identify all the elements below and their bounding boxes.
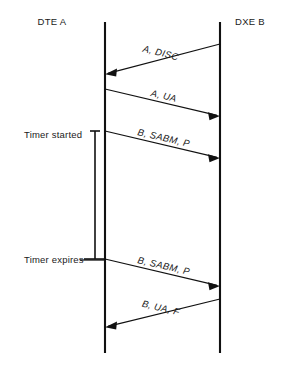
annotation-timer-started-label: Timer started [24, 129, 82, 140]
lifeline-header-dte-a: DTE A [38, 16, 67, 27]
message-b-sabm-p-first-arrowhead [208, 154, 220, 162]
message-a-disc-arrowhead [105, 69, 117, 77]
message-b-ua-f-arrowhead [105, 322, 117, 330]
message-b-ua-f-label: B, UA, F [141, 298, 182, 318]
message-b-sabm-p-second-arrowhead [208, 282, 220, 290]
lifeline-group-dxe-b: DXE B [220, 16, 265, 353]
sequence-diagram-canvas: DTE A DXE B Timer started Timer expires … [0, 0, 281, 376]
annotation-timer-started: Timer started [24, 129, 82, 140]
annotation-timer-expires-label: Timer expires [24, 254, 84, 265]
message-a-ua-label: A, UA [149, 87, 178, 104]
annotation-timer-expires: Timer expires [24, 254, 105, 265]
message-b-sabm-p-second: B, SABM, P [105, 254, 220, 290]
message-b-sabm-p-first-label: B, SABM, P [137, 126, 192, 149]
message-b-ua-f: B, UA, F [105, 298, 220, 330]
diagram-svg: DTE A DXE B Timer started Timer expires … [0, 0, 281, 376]
message-a-ua-arrowhead [208, 112, 220, 120]
message-b-sabm-p-second-label: B, SABM, P [137, 254, 192, 277]
message-a-disc: A, DISC [105, 42, 220, 76]
timer-bar-group [84, 131, 106, 259]
lifeline-header-dxe-b: DXE B [235, 16, 265, 27]
message-a-ua: A, UA [105, 87, 220, 120]
message-b-sabm-p-first: B, SABM, P [105, 126, 220, 162]
